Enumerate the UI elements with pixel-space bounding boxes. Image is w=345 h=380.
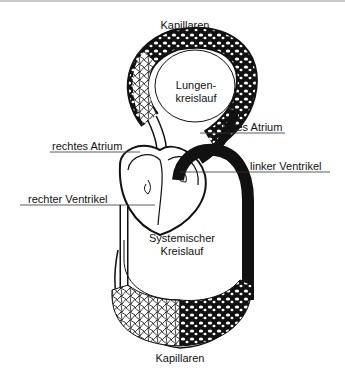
label-right-atrium: rechtes Atrium [52,140,122,152]
label-left-atrium: linkes Atrium [220,121,282,133]
heart [120,146,248,300]
circulation-drawing [0,0,345,380]
label-pulmonary-2: kreislauf [166,92,226,104]
label-systemic-1: Systemischer [142,232,222,244]
label-capillaries-top: Kapillaren [145,19,225,31]
label-pulmonary-1: Lungen- [166,79,226,91]
circulation-diagram: Kapillaren Lungen- kreislauf linkes Atri… [0,0,345,380]
label-capillaries-bottom: Kapillaren [140,352,220,364]
label-right-ventricle: rechter Ventrikel [28,193,107,205]
label-left-ventricle: linker Ventrikel [250,160,322,172]
label-systemic-2: Kreislauf [142,245,222,257]
